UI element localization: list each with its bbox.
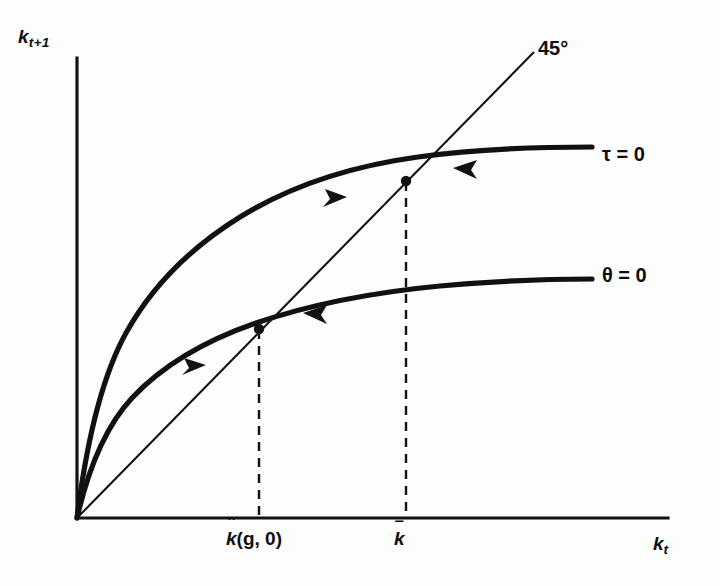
y-axis-label-symbol: k: [18, 26, 29, 47]
x-axis-label-subscript: t: [664, 542, 669, 557]
kbar-symbol-wrap: ‾k: [394, 529, 405, 548]
axes-group: [77, 58, 668, 518]
theta-curve-group: [77, 279, 592, 518]
khat-symbol-wrap: ˆk: [226, 529, 237, 548]
y-axis-label: kt+1: [18, 27, 50, 49]
tau-curve-group: [77, 147, 592, 518]
tau-arrow-right-icon: [323, 189, 347, 207]
theta-zero-curve: [77, 279, 592, 518]
khat-fixed-point: [254, 324, 264, 334]
x-axis-label: kt: [653, 534, 668, 556]
y-axis-label-subscript: t+1: [29, 35, 50, 50]
tau-zero-curve: [77, 147, 592, 518]
drop-lines-group: [259, 182, 406, 516]
khat-tick-label: ˆk(g, 0): [226, 529, 282, 548]
khat-arguments: (g, 0): [237, 528, 282, 549]
figure-container: kt+1 kt 45° τ = 0 θ = 0 ˆk(g, 0) ‾k: [0, 0, 720, 586]
theta-arrow-right-icon: [182, 358, 206, 375]
tau-arrow-left-icon: [453, 160, 477, 179]
forty-five-degree-label: 45°: [538, 38, 568, 58]
kbar-accent: ‾: [394, 520, 405, 538]
phase-diagram-svg: [0, 0, 720, 586]
tau-curve-label: τ = 0: [602, 144, 645, 164]
kbar-fixed-point: [401, 176, 411, 186]
khat-accent: ˆ: [226, 516, 237, 534]
theta-curve-label: θ = 0: [602, 265, 647, 285]
direction-arrows-group: [182, 160, 477, 375]
kbar-tick-label: ‾k: [394, 529, 405, 548]
x-axis-label-symbol: k: [653, 533, 664, 554]
